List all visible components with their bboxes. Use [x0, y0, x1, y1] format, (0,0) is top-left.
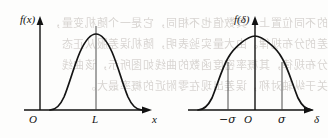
right-x-axis-label: δ	[314, 114, 319, 125]
left-peak-label-L: L	[92, 114, 98, 125]
left-x-axis-arrow-icon	[142, 106, 152, 113]
left-x-axis-label: x	[152, 114, 157, 125]
right-y-axis-label: f(δ)	[234, 14, 250, 25]
left-chart-panel: f(x) O L x	[0, 0, 164, 138]
right-chart-panel: f(δ) −σ O σ δ	[164, 0, 328, 138]
left-origin-label: O	[29, 114, 37, 125]
right-neg-sigma-label: −σ	[219, 114, 236, 125]
figure-root: 的不同位置上，其数值也不相同，它是一个随机变量， 差的分布规律。由大量实验表明，…	[0, 0, 328, 138]
left-y-axis-arrow-icon	[37, 16, 44, 25]
right-origin-label: O	[244, 114, 252, 125]
left-y-axis-label: f(x)	[20, 14, 35, 25]
right-y-axis-arrow-icon	[252, 16, 259, 25]
right-pos-sigma-label: σ	[278, 114, 286, 125]
